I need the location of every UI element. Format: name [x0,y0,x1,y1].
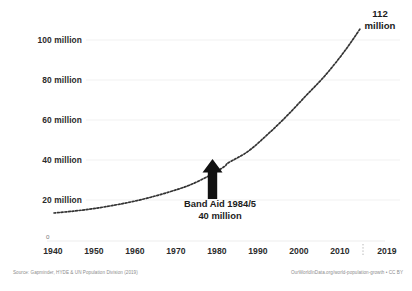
source-note: Source: Gapminder, HYDE & UN Population … [13,270,138,276]
endpoint-unit-label: million [352,20,408,32]
band-aid-arrow-icon [203,159,223,199]
y-tick-label-80: 80 million [12,75,82,85]
endpoint-value-label: 112 [352,8,408,20]
y-tick-label-60: 60 million [12,115,82,125]
band-aid-event-label: Band Aid 1984/5 [147,198,293,210]
y-tick-label-20: 20 million [12,195,82,205]
y-tick-label-100: 100 million [12,35,82,45]
x-tick-label-1970: 1970 [155,246,197,256]
band-aid-value-label: 40 million [147,210,293,222]
x-tick-label-1950: 1950 [73,246,115,256]
gridlines [86,40,400,200]
x-tick-label-1980: 1980 [196,246,238,256]
attribution-note[interactable]: OurWorldInData.org/world-population-grow… [291,270,403,276]
x-tick-label-1940: 1940 [32,246,74,256]
x-tick-label-1960: 1960 [114,246,156,256]
y-origin-label: 0 [46,233,49,240]
y-tick-label-40: 40 million [12,155,82,165]
x-tick-label-2019: 2019 [366,246,408,256]
population-growth-chart: 100 million 80 million 60 million 40 mil… [0,0,412,291]
x-tick-label-2010: 2010 [319,246,361,256]
x-tick-label-1990: 1990 [237,246,279,256]
population-curve [54,29,360,213]
x-tick-label-2000: 2000 [278,246,320,256]
